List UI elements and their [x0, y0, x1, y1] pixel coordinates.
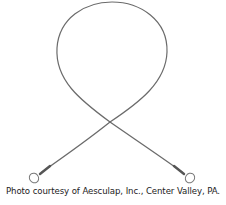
- photo-caption: Photo courtesy of Aesculap, Inc., Center…: [0, 186, 226, 196]
- wire-right-strand: [110, 122, 182, 172]
- wire-loop: [57, 2, 167, 122]
- left-eyelet-icon: [27, 171, 40, 184]
- wire-saw-photo: [0, 0, 226, 186]
- right-eyelet-icon: [183, 171, 196, 184]
- wire-left-strand: [42, 122, 110, 172]
- right-sleeve: [174, 166, 184, 174]
- left-sleeve: [40, 166, 50, 174]
